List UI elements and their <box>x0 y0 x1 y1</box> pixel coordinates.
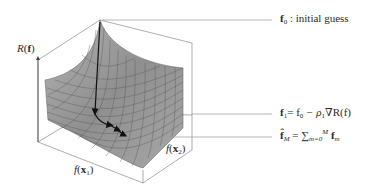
fm-sub: m <box>335 135 340 143</box>
annotation-update-step: f1= f0 − ρ1∇R(f) <box>280 106 351 120</box>
initial-guess-text: : initial guess <box>290 12 349 24</box>
x1-axis-sub: 1 <box>86 169 90 177</box>
annotation-initial-guess: f0 : initial guess <box>280 12 349 26</box>
sum-symbol: = ∑ <box>290 129 310 141</box>
rho-symbol: − ρ <box>303 106 321 118</box>
z-axis-label: R(f) <box>17 42 35 54</box>
x2-axis-sub: 2 <box>178 148 182 156</box>
sum-lower: m=0 <box>309 135 322 143</box>
loss-surface-diagram <box>0 0 383 194</box>
f0-sub: 0 <box>284 18 288 26</box>
f0-rhs: = f <box>287 106 300 118</box>
z-axis-func: R <box>17 42 24 54</box>
x2-axis-func: f <box>166 142 169 154</box>
x2-axis-label: f(x2) <box>166 142 185 156</box>
z-axis-arg: f <box>27 42 31 54</box>
gradient-term: ∇R(f) <box>325 106 351 118</box>
x1-axis-label: f(x1) <box>74 163 93 177</box>
annotation-final-estimate: f̂M = ∑m=0M fm <box>280 128 340 143</box>
x1-axis-func: f <box>74 163 77 175</box>
